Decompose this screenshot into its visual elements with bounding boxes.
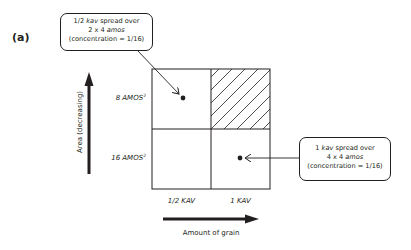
x-axis-label: Amount of grain [161,229,261,237]
x-axis-arrow-icon [163,215,259,224]
dot-half-kav [181,96,186,101]
col-label-one-kav: 1 KAV [211,197,270,205]
row-label-16-amos: 16 AMOS2 [86,153,146,162]
row-label-8-amos: 8 AMOS2 [86,93,146,102]
callout-line-2: 2 x 4 amos [61,26,152,35]
dot-one-kav [238,156,243,161]
callout-line-1: 1 kav spread over [300,144,390,153]
callout-line-2: 4 x 4 amos [300,153,390,162]
callout-half-kav: 1/2 kav spread over 2 x 4 amos (concentr… [60,13,153,51]
y-axis-label: Area (decreasing) [76,77,84,167]
callout-line-3: (concentration = 1/16) [61,35,152,44]
col-label-half-kav: 1/2 KAV [152,197,211,205]
callout-one-kav: 1 kav spread over 4 x 4 amos (concentrat… [299,137,391,181]
callout-line-3: (concentration = 1/16) [300,162,390,171]
callout-line-1: 1/2 kav spread over [61,17,152,26]
grid-2x2 [152,69,270,189]
leader-arrow-top [137,50,179,94]
